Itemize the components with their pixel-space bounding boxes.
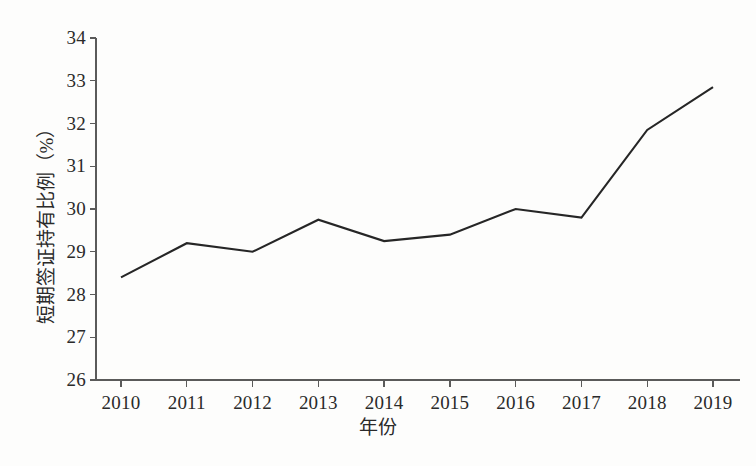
y-tick-label: 29 — [40, 241, 86, 263]
x-tick-label: 2011 — [168, 392, 206, 414]
x-tick-marks — [121, 380, 713, 387]
x-tick-label: 2016 — [496, 392, 535, 414]
x-tick-label: 2012 — [233, 392, 272, 414]
x-tick-label: 2017 — [562, 392, 601, 414]
x-tick-label: 2014 — [365, 392, 404, 414]
x-tick-label: 2013 — [299, 392, 338, 414]
y-tick-label: 32 — [40, 113, 86, 135]
y-tick-label: 28 — [40, 284, 86, 306]
axis-lines — [96, 38, 740, 380]
y-tick-label: 26 — [40, 369, 86, 391]
axes-group — [90, 38, 740, 387]
x-tick-label: 2015 — [430, 392, 469, 414]
x-tick-label: 2018 — [628, 392, 667, 414]
x-tick-label: 2010 — [102, 392, 141, 414]
chart-figure: 短期签证持有比例（%） 年份 262728293031323334 201020… — [0, 0, 756, 466]
series-line-short-term-visa — [121, 87, 713, 277]
y-tick-label: 27 — [40, 326, 86, 348]
y-tick-label: 31 — [40, 155, 86, 177]
y-tick-label: 30 — [40, 198, 86, 220]
y-tick-marks — [90, 38, 96, 380]
data-series-group — [121, 87, 713, 277]
y-tick-label: 34 — [40, 27, 86, 49]
x-tick-label: 2019 — [694, 392, 733, 414]
y-tick-label: 33 — [40, 70, 86, 92]
